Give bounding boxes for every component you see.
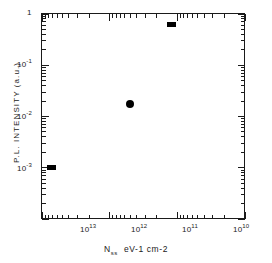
plot-figure: 1 10-1 10-2 10-3 1013 1012 1011 1010 P.L… bbox=[0, 0, 272, 263]
data-markers bbox=[0, 0, 272, 263]
data-point-square-2 bbox=[167, 22, 176, 27]
data-point-square-0 bbox=[47, 165, 56, 170]
data-point-circle-1 bbox=[126, 100, 134, 108]
